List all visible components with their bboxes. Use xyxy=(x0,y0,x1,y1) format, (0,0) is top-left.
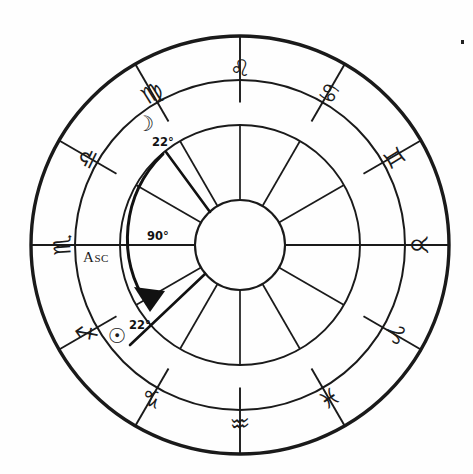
sign-glyph-gemini: ♊ xyxy=(378,142,411,173)
aspect-degree-label: 90° xyxy=(147,229,169,243)
sign-glyph-libra: ♎ xyxy=(71,143,103,173)
sign-glyph-taurus: ♉ xyxy=(406,234,433,256)
house-cusp-5 xyxy=(263,141,301,206)
sign-glyph-pisces: ♓ xyxy=(313,381,345,414)
sun-position-ray xyxy=(130,274,205,345)
astrology-chart-wheel: ♌ ♋ ♊ ♉ ♈ ♓ ♒ ♑ ♐ ♏ ♎ ♍ ☽ 22° xyxy=(0,0,473,474)
sign-glyph-virgo: ♍ xyxy=(136,77,167,110)
sign-glyph-aries: ♈ xyxy=(378,318,410,348)
sign-glyph-sagittarius: ♐ xyxy=(70,317,103,349)
sun-degree-label: 22° xyxy=(129,318,151,332)
sign-glyph-cancer: ♋ xyxy=(314,77,344,110)
house-cusp-2 xyxy=(136,185,201,223)
planet-glyph-sun: ☉ xyxy=(108,324,127,348)
sign-glyph-aquarius: ♒ xyxy=(229,409,251,436)
planet-glyph-moon: ☽ xyxy=(136,112,155,136)
sign-glyph-scorpio: ♏ xyxy=(48,234,75,256)
house-cusp-8 xyxy=(279,268,344,306)
inner-core-circle xyxy=(195,200,285,290)
sign-glyph-leo: ♌ xyxy=(230,55,251,81)
ascendant-label: Asc xyxy=(83,249,109,265)
scan-speck xyxy=(461,40,464,44)
sign-glyph-capricorn: ♑ xyxy=(137,382,167,414)
chart-canvas: ♌ ♋ ♊ ♉ ♈ ♓ ♒ ♑ ♐ ♏ ♎ ♍ ☽ 22° xyxy=(0,0,473,474)
moon-degree-label: 22° xyxy=(152,135,174,149)
house-cusp-9 xyxy=(263,284,301,349)
house-cusp-6 xyxy=(279,185,344,223)
